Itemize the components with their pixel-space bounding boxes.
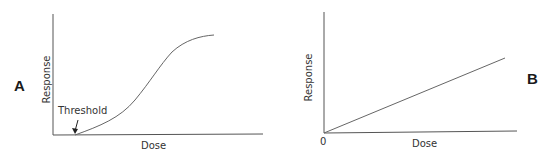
figure-canvas xyxy=(0,0,538,162)
panel-a-x-label: Dose xyxy=(141,140,166,151)
panel-b-origin-label: 0 xyxy=(320,136,326,147)
panel-a-x-axis xyxy=(53,134,263,135)
threshold-arrowhead-icon xyxy=(72,128,78,134)
panel-a-sigmoid-curve xyxy=(75,35,214,135)
panel-b-x-label: Dose xyxy=(412,138,437,149)
threshold-annotation: Threshold xyxy=(58,105,107,116)
panel-a-label: A xyxy=(14,77,25,94)
panel-a-y-label: Response xyxy=(41,50,52,110)
panel-b-x-axis xyxy=(324,131,517,133)
panel-b-linear-line xyxy=(324,58,505,133)
panel-b-label: B xyxy=(527,70,538,87)
panel-b-y-label: Response xyxy=(303,48,314,108)
